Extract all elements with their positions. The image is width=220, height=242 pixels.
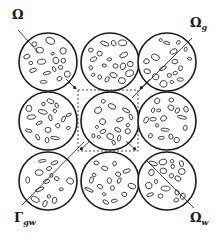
- porous-grain-diagram: [0, 0, 220, 242]
- label-gamma-gw: Γgw: [14, 211, 36, 226]
- grain-1-0: [19, 92, 77, 150]
- label-omega-g: Ωg: [190, 16, 207, 31]
- unit-cell-arrow-br: [126, 141, 136, 150]
- unit-cell-arrow-bl: [80, 141, 90, 150]
- grain-0-0: [19, 33, 77, 91]
- grain-2-1: [81, 152, 139, 210]
- grain-0-1: [81, 33, 139, 91]
- grain-2-0: [19, 152, 77, 210]
- grain-1-2: [138, 92, 196, 150]
- label-omega-w: Ωw: [190, 211, 208, 226]
- label-omega: Ω: [12, 8, 24, 23]
